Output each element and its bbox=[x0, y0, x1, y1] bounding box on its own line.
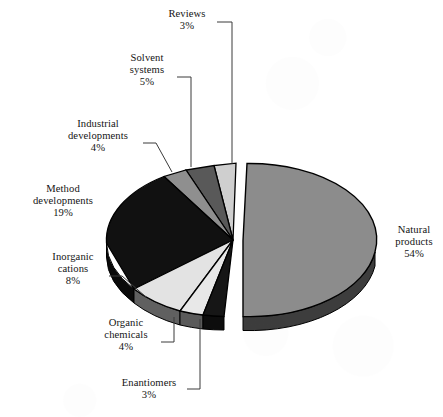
leader-line-industrial-developments bbox=[143, 143, 172, 172]
label-industrial-developments-name2: developments bbox=[53, 130, 143, 142]
pie-chart-figure: Reviews 3% Solvent systems 5% Industrial… bbox=[0, 0, 443, 417]
label-reviews-name: Reviews bbox=[157, 8, 217, 20]
label-method-developments-name: Method bbox=[18, 183, 108, 195]
label-enantiomers-name: Enantiomers bbox=[112, 377, 186, 389]
label-solvent-systems: Solvent systems 5% bbox=[117, 52, 177, 88]
label-enantiomers-value: 3% bbox=[112, 389, 186, 401]
leader-line-enantiomers bbox=[187, 319, 200, 389]
label-natural-products-value: 54% bbox=[385, 248, 443, 260]
label-reviews: Reviews 3% bbox=[157, 8, 217, 32]
label-natural-products-name2: products bbox=[385, 236, 443, 248]
label-solvent-systems-name2: systems bbox=[117, 64, 177, 76]
label-method-developments-name2: developments bbox=[18, 195, 108, 207]
label-inorganic-cations-value: 8% bbox=[39, 275, 107, 287]
leader-line-reviews bbox=[217, 22, 232, 164]
label-industrial-developments-value: 4% bbox=[53, 142, 143, 154]
label-method-developments: Method developments 19% bbox=[18, 183, 108, 219]
label-inorganic-cations: Inorganic cations 8% bbox=[39, 251, 107, 287]
label-organic-chemicals: Organic chemicals 4% bbox=[92, 317, 160, 353]
label-inorganic-cations-name2: cations bbox=[39, 263, 107, 275]
label-organic-chemicals-name2: chemicals bbox=[92, 329, 160, 341]
slice-side-enantiomers bbox=[203, 315, 224, 330]
label-enantiomers: Enantiomers 3% bbox=[112, 377, 186, 401]
label-organic-chemicals-value: 4% bbox=[92, 341, 160, 353]
label-inorganic-cations-name: Inorganic bbox=[39, 251, 107, 263]
label-method-developments-value: 19% bbox=[18, 207, 108, 219]
pie-top-faces bbox=[106, 163, 376, 316]
label-organic-chemicals-name: Organic bbox=[92, 317, 160, 329]
label-industrial-developments: Industrial developments 4% bbox=[53, 118, 143, 154]
label-industrial-developments-name: Industrial bbox=[53, 118, 143, 130]
label-reviews-value: 3% bbox=[157, 20, 217, 32]
leader-line-solvent-systems bbox=[177, 77, 191, 167]
label-natural-products-name: Natural bbox=[385, 224, 443, 236]
label-natural-products: Natural products 54% bbox=[385, 224, 443, 260]
label-solvent-systems-name: Solvent bbox=[117, 52, 177, 64]
label-solvent-systems-value: 5% bbox=[117, 76, 177, 88]
